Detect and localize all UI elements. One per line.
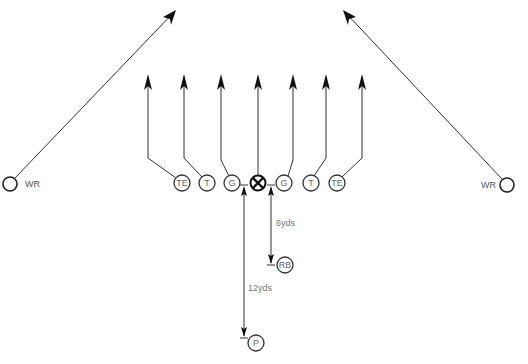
wr-right-route [343,10,502,179]
te-left-label: TE [176,178,188,188]
p-depth-dimension: 12yds [240,185,273,338]
player-center [251,176,266,191]
player-t-left: T [199,175,215,191]
p-depth-label: 12yds [248,283,273,293]
player-wr-left: WR [3,177,40,191]
te-right-label: TE [331,178,343,188]
line-routes [148,80,362,178]
rb-label: RB [279,260,292,270]
t-left-label: T [204,178,210,188]
player-wr-right: WR [481,178,514,192]
wr-right-label: WR [481,180,496,190]
rb-depth-dimension: 6yds [267,185,296,265]
p-label: P [253,338,259,348]
rb-depth-label: 6yds [276,218,296,228]
route-arrowheads [144,74,366,90]
g-left-label: G [228,178,235,188]
play-diagram: 12yds 6yds WR WR TE T G G T [0,0,528,364]
player-rb: RB [277,257,293,273]
player-p: P [248,335,264,351]
wr-left-label: WR [25,179,40,189]
player-g-left: G [224,175,240,191]
g-right-label: G [280,178,287,188]
player-g-right: G [276,175,292,191]
wr-left-route [15,10,176,178]
player-te-right: TE [329,175,345,191]
player-t-right: T [303,175,319,191]
player-te-left: TE [174,175,190,191]
t-right-label: T [308,178,314,188]
